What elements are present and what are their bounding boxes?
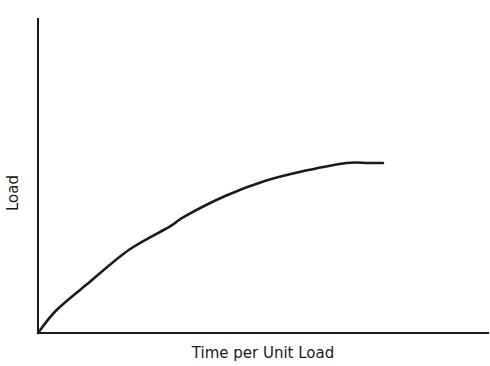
load-curve [38, 162, 383, 333]
y-axis-label: Load [4, 175, 22, 211]
x-axis-label: Time per Unit Load [191, 344, 334, 362]
chart: Time per Unit Load Load [0, 0, 490, 366]
